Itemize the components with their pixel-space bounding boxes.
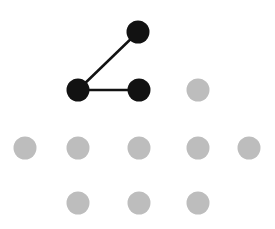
inactive-node-n12[interactable] [187,192,210,215]
inactive-node-n5[interactable] [14,137,37,160]
inactive-node-n6[interactable] [67,137,90,160]
edge-layer [78,32,139,90]
active-node-n2[interactable] [67,79,90,102]
node-layer [14,21,261,215]
inactive-node-n9[interactable] [238,137,261,160]
edge-n1-n2 [78,32,138,90]
inactive-node-n8[interactable] [187,137,210,160]
active-node-n1[interactable] [127,21,150,44]
inactive-node-n10[interactable] [67,192,90,215]
node-graph [0,0,275,229]
active-node-n3[interactable] [128,79,151,102]
inactive-node-n4[interactable] [187,79,210,102]
diagram-canvas [0,0,275,229]
inactive-node-n11[interactable] [128,192,151,215]
inactive-node-n7[interactable] [128,137,151,160]
